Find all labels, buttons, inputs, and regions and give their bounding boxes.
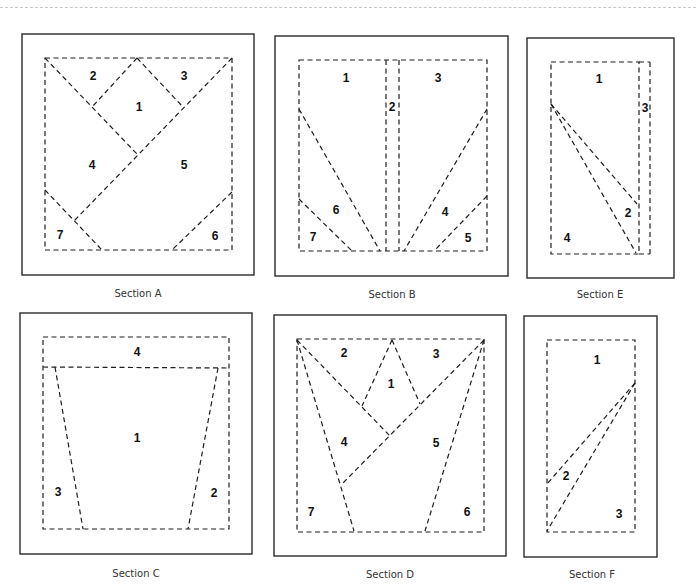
piece-number: 2 xyxy=(341,346,348,360)
section-caption: Section F xyxy=(569,569,615,580)
piece-number: 1 xyxy=(134,431,141,445)
piece-number: 2 xyxy=(563,469,570,483)
piece-number: 2 xyxy=(625,206,632,220)
piece-number: 4 xyxy=(89,158,96,172)
block-frame xyxy=(274,315,506,556)
piece-number: 4 xyxy=(564,231,571,245)
section-caption: Section E xyxy=(577,289,624,300)
piece-number: 3 xyxy=(181,69,188,83)
piece-number: 1 xyxy=(343,71,350,85)
piece-number: 4 xyxy=(442,205,449,219)
piece-number: 4 xyxy=(341,435,348,449)
piece-number: 1 xyxy=(596,72,603,86)
section-d: 1234567Section D xyxy=(274,315,506,580)
piece-number: 6 xyxy=(212,229,219,243)
piece-number: 3 xyxy=(642,101,649,115)
piece-number: 2 xyxy=(389,100,396,114)
piece-number: 3 xyxy=(616,507,623,521)
piece-number: 3 xyxy=(433,347,440,361)
piece-number: 2 xyxy=(90,69,97,83)
piece-number: 1 xyxy=(594,353,601,367)
piece-number: 7 xyxy=(308,505,315,519)
piece-number: 5 xyxy=(181,158,188,172)
piece-number: 2 xyxy=(211,486,218,500)
piece-number: 1 xyxy=(388,377,395,391)
section-a: 1234567Section A xyxy=(22,34,254,299)
piece-number: 5 xyxy=(433,436,440,450)
piece-number: 6 xyxy=(333,203,340,217)
piece-number: 5 xyxy=(465,231,472,245)
piece-number: 7 xyxy=(57,228,64,242)
section-c: 1234Section C xyxy=(20,313,252,579)
piece-number: 7 xyxy=(310,230,317,244)
piece-number: 3 xyxy=(435,71,442,85)
piece-number: 3 xyxy=(55,485,62,499)
block-frame xyxy=(524,316,657,557)
section-caption: Section D xyxy=(366,569,414,580)
section-b: 1234567Section B xyxy=(275,36,508,300)
section-caption: Section C xyxy=(112,568,159,579)
paper-piecing-diagrams: 1234567Section A1234567Section B1234Sect… xyxy=(0,0,696,585)
section-caption: Section B xyxy=(368,289,415,300)
piece-number: 1 xyxy=(136,100,143,114)
section-f: 123Section F xyxy=(524,316,657,580)
piece-number: 6 xyxy=(464,505,471,519)
piece-number: 4 xyxy=(134,345,141,359)
section-caption: Section A xyxy=(114,288,161,299)
section-e: 1234Section E xyxy=(527,38,674,300)
